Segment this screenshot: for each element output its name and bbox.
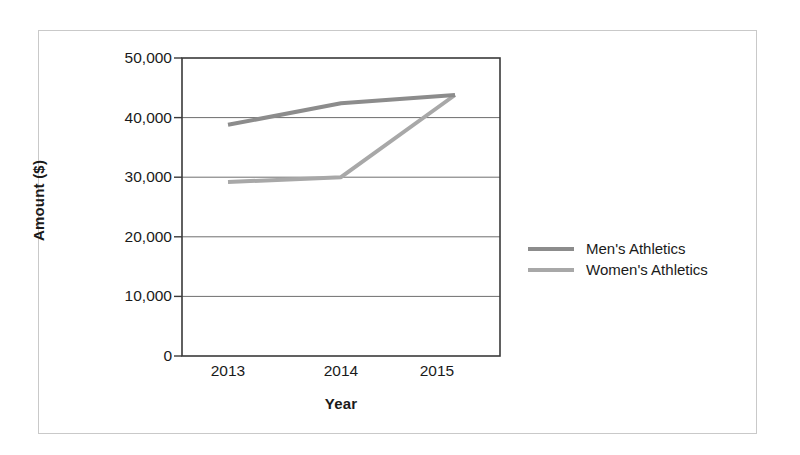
y-tick-label-30000: 30,000: [82, 168, 172, 186]
x-tick-label-2013: 2013: [188, 362, 268, 380]
y-tick-label-20000: 20,000: [82, 228, 172, 246]
x-tick-label-2014: 2014: [301, 362, 381, 380]
legend-item-womens-athletics: Women's Athletics: [528, 259, 778, 280]
chart-legend: Men's Athletics Women's Athletics: [528, 238, 778, 280]
y-tick-label-50000: 50,000: [82, 49, 172, 67]
legend-label-womens-athletics: Women's Athletics: [586, 261, 708, 278]
y-tick-label-40000: 40,000: [82, 109, 172, 127]
y-tick-label-10000: 10,000: [82, 287, 172, 305]
legend-swatch-womens-athletics: [528, 268, 574, 272]
legend-item-mens-athletics: Men's Athletics: [528, 238, 778, 259]
x-axis-title: Year: [182, 395, 500, 412]
y-tick-label-0: 0: [82, 347, 172, 365]
y-axis-title: Amount ($): [30, 121, 47, 281]
legend-swatch-mens-athletics: [528, 247, 574, 251]
legend-label-mens-athletics: Men's Athletics: [586, 240, 686, 257]
line-chart: 50,000 40,000 30,000 20,000 10,000 0 201…: [0, 0, 800, 455]
x-tick-label-2015: 2015: [397, 362, 477, 380]
y-axis-tick-labels: 50,000 40,000 30,000 20,000 10,000 0: [82, 0, 172, 455]
